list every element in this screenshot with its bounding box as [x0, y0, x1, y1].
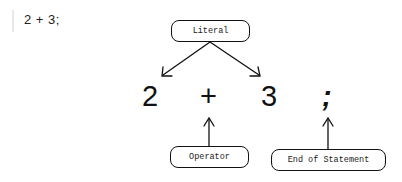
arrow-literal-to-2	[163, 42, 210, 75]
token-semicolon: ;	[322, 82, 332, 111]
end-of-statement-label: End of Statement	[288, 155, 370, 165]
token-2: 2	[142, 82, 158, 111]
arrow-literal-to-3	[210, 42, 259, 75]
token-plus: +	[200, 82, 217, 111]
operator-label-box: Operator	[170, 146, 249, 168]
token-3: 3	[261, 82, 277, 111]
operator-label: Operator	[189, 152, 230, 162]
end-of-statement-label-box: End of Statement	[271, 149, 386, 171]
